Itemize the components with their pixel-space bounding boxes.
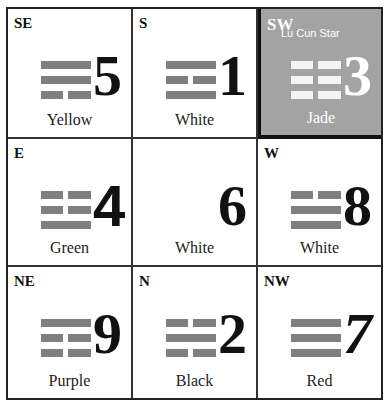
- trigram-icon: [291, 191, 341, 229]
- color-label: Black: [133, 372, 256, 390]
- trigram-icon: [41, 319, 91, 357]
- direction-label: E: [14, 145, 24, 162]
- star-number: 1: [218, 47, 247, 105]
- star-number: 8: [343, 177, 372, 235]
- star-number: 4: [93, 177, 125, 235]
- trigram-icon: [41, 61, 91, 99]
- cell-w: W 8 White: [258, 139, 381, 267]
- cell-sw: SW Lu Cun Star 3 Jade: [258, 9, 381, 139]
- trigram-icon: [291, 61, 341, 99]
- star-number: 7: [343, 305, 372, 363]
- cell-nw: NW 7 Red: [258, 267, 381, 398]
- star-number: 3: [343, 47, 372, 105]
- color-label: Jade: [261, 109, 381, 127]
- star-number: 6: [218, 177, 247, 235]
- color-label: White: [133, 111, 256, 129]
- trigram-icon: [166, 61, 216, 99]
- color-label: Red: [258, 372, 381, 390]
- direction-label: S: [139, 15, 147, 32]
- color-label: Purple: [8, 372, 131, 390]
- star-number: 5: [93, 47, 122, 105]
- star-number: 2: [218, 305, 247, 363]
- star-number: 9: [93, 305, 122, 363]
- cell-se: SE 5 Yellow: [8, 9, 133, 139]
- star-name-label: Lu Cun Star: [281, 27, 340, 39]
- cell-n: N 2 Black: [133, 267, 258, 398]
- trigram-icon: [291, 319, 341, 357]
- direction-label: SE: [14, 15, 32, 32]
- direction-label: N: [139, 273, 150, 290]
- trigram-icon: [41, 191, 91, 229]
- direction-label: NE: [14, 273, 35, 290]
- color-label: White: [133, 239, 256, 257]
- direction-label: NW: [264, 273, 290, 290]
- lo-shu-grid: SE 5 Yellow S 1 White SW Lu Cun Star 3 J…: [6, 7, 383, 400]
- color-label: White: [258, 239, 381, 257]
- trigram-icon: [166, 319, 216, 357]
- direction-label: W: [264, 145, 279, 162]
- color-label: Green: [8, 239, 131, 257]
- cell-center: 6 White: [133, 139, 258, 267]
- cell-e: E 4 Green: [8, 139, 133, 267]
- cell-s: S 1 White: [133, 9, 258, 139]
- color-label: Yellow: [8, 111, 131, 129]
- cell-ne: NE 9 Purple: [8, 267, 133, 398]
